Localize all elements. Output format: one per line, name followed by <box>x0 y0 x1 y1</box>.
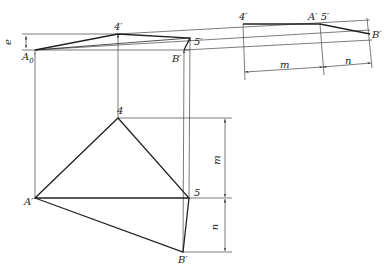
label-A0-prime: A0′ <box>22 52 36 65</box>
label-m-plan: m <box>212 155 222 164</box>
aux-view-outline <box>243 24 370 34</box>
projector-B <box>183 50 184 252</box>
label-B-prime-aux: B′ <box>372 30 382 40</box>
label-e: e <box>3 39 13 45</box>
label-A-plan: A′ <box>24 197 34 207</box>
label-4-prime-aux: 4′ <box>239 12 248 22</box>
label-5-plan: 5 <box>194 188 200 198</box>
label-B-prime-plan: B′ <box>178 255 188 265</box>
plan-lower <box>35 198 189 252</box>
aux-projector-B <box>367 18 372 68</box>
label-m-aux: m <box>280 60 289 70</box>
aux-line-3 <box>184 40 372 50</box>
plan-triangle <box>35 118 189 198</box>
label-5-prime-top: 5′ <box>194 37 203 47</box>
label-n-aux: n <box>345 56 351 66</box>
projection-diagram <box>0 0 386 271</box>
label-4-prime-top: 4′ <box>114 22 123 32</box>
label-4-plan: 4 <box>117 106 123 116</box>
aux-projector-4 <box>243 24 245 80</box>
label-A-5-prime-aux: A′ 5′ <box>308 12 329 22</box>
label-n-plan: n <box>210 224 220 230</box>
label-B-prime-top: B′ <box>172 54 182 64</box>
